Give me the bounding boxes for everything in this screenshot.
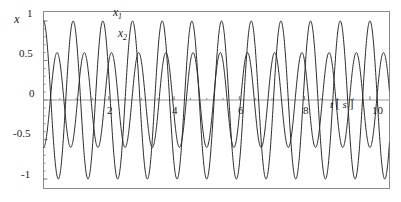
x-tick-label-2: 2 xyxy=(107,105,113,116)
y-axis-title: x xyxy=(14,13,20,26)
x-axis-symbol: t xyxy=(330,98,333,110)
series-label-x2-subscript: 2 xyxy=(123,33,127,42)
series-label-x1-subscript: 1 xyxy=(118,12,122,21)
y-tick-label-neg1: -1 xyxy=(21,169,30,180)
y-tick-label-1: 1 xyxy=(27,8,33,19)
x-tick-label-10: 10 xyxy=(372,105,383,116)
x-tick-label-6: 6 xyxy=(238,105,244,116)
y-tick-label-neg0.5: -0.5 xyxy=(13,128,30,139)
x-axis-unit: s xyxy=(343,98,347,110)
x-axis-bracket-open: [ xyxy=(336,97,340,111)
x-axis-bracket-close: ] xyxy=(350,97,354,111)
y-tick-label-0.5: 0.5 xyxy=(19,48,33,59)
y-tick-label-0: 0 xyxy=(29,88,35,99)
x-axis-title: t [ s ] xyxy=(330,98,354,110)
series-label-x2: x2 xyxy=(118,28,127,42)
x-tick-label-4: 4 xyxy=(172,105,178,116)
x-tick-label-8: 8 xyxy=(303,105,309,116)
chart-figure: x t [ s ] x1 x2 1 0.5 0 -0.5 -1 2 4 6 8 … xyxy=(0,0,401,202)
series-label-x1: x1 xyxy=(113,7,122,21)
